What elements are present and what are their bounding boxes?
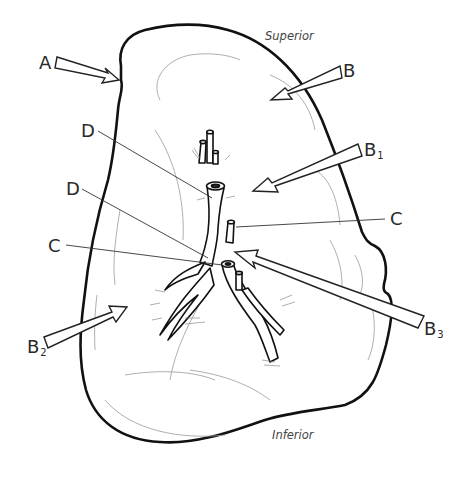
arrow-B2 (44, 306, 127, 348)
leader-D-upper (98, 131, 212, 198)
arrow-A (55, 57, 119, 83)
label-C-upper: C (390, 210, 403, 228)
leader-C-upper (236, 219, 385, 227)
leader-D-lower (82, 189, 208, 258)
orientation-inferior: Inferior (272, 430, 314, 442)
upper-small-vessel-2 (199, 142, 206, 163)
upper-small-vessel-1 (207, 132, 213, 163)
label-B: B (343, 62, 355, 80)
organ-diagram (0, 0, 458, 477)
organ-outline (81, 25, 392, 443)
label-C-lower: C (48, 237, 61, 255)
surface-contours (95, 54, 375, 436)
orientation-superior: Superior (265, 31, 314, 43)
hilar-vessels (160, 130, 284, 362)
lower-vessel (222, 265, 278, 362)
label-D-lower: D (66, 180, 80, 198)
label-B3: B3 (424, 320, 444, 340)
label-B1: B1 (364, 141, 384, 161)
label-B2: B2 (27, 338, 47, 358)
arrow-B (271, 66, 342, 100)
label-A: A (39, 54, 51, 72)
label-D-upper: D (81, 122, 95, 140)
